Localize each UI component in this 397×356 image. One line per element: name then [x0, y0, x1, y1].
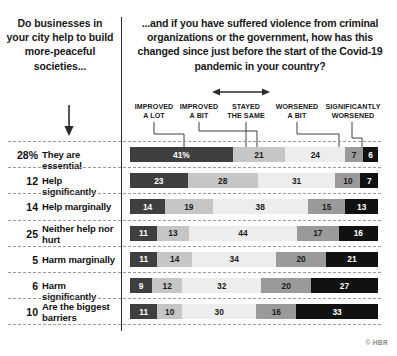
bar-segment: 10: [157, 304, 182, 319]
stacked-bar: 912322027: [130, 278, 378, 293]
table-row: 14Help marginally1419381513: [0, 199, 397, 221]
table-row: 28%They are essential41%212476: [0, 147, 397, 169]
table-row: 5Harm marginally1114342021: [0, 252, 397, 274]
bar-segment: 12: [152, 278, 182, 293]
stacked-bar: 1110301633: [130, 304, 378, 319]
bar-segment: 21: [233, 147, 286, 162]
bar-segment: 11: [130, 304, 157, 319]
bar-segment: 13: [345, 199, 378, 214]
table-row: 6Harm significantly912322027: [0, 278, 397, 300]
bar-segment: 30: [182, 304, 256, 319]
bar-segment: 15: [308, 199, 346, 214]
row-separator: [8, 193, 381, 194]
row-separator: [8, 246, 381, 247]
column-header-significantly-worsened: SIGNIFICANTLY WORSENED: [320, 103, 386, 120]
column-header-worsened-a-bit: WORSENED A BIT: [269, 103, 325, 120]
bar-segment: 21: [326, 252, 378, 267]
row-separator: [8, 167, 381, 168]
row-separator: [8, 272, 381, 273]
row-share-value: 28%: [8, 149, 38, 161]
bar-segment: 20: [261, 278, 311, 293]
stacked-bar: 1419381513: [130, 199, 378, 214]
bar-segment: 10: [335, 173, 360, 188]
stacked-bar: 232831107: [130, 173, 378, 188]
bar-segment: 14: [157, 252, 192, 267]
bar-segment: 33: [296, 304, 378, 319]
bar-segment: 19: [165, 199, 213, 214]
row-separator: [8, 220, 381, 221]
left-question-text: Do businesses in your city help to build…: [6, 16, 114, 73]
row-share-value: 6: [8, 280, 38, 292]
down-arrow-icon: [56, 104, 82, 138]
bar-segment: 28: [188, 173, 258, 188]
table-row: 12Help significantly232831107: [0, 173, 397, 195]
row-separator: [8, 298, 381, 299]
bar-segment: 34: [192, 252, 276, 267]
bar-segment: 27: [311, 278, 378, 293]
bar-segment: 17: [297, 226, 339, 241]
bar-segment: 24: [285, 147, 345, 162]
bar-segment: 11: [130, 226, 157, 241]
table-row: 25Neither help nor hurt1113441716: [0, 226, 397, 248]
row-category-label: Are the biggest barriers: [42, 301, 118, 323]
row-share-value: 5: [8, 254, 38, 266]
right-question-text: ...and if you have suffered violence fro…: [126, 16, 394, 73]
bar-segment: 16: [256, 304, 296, 319]
bar-segment: 20: [276, 252, 326, 267]
stacked-bar: 1113441716: [130, 226, 378, 241]
row-share-value: 10: [8, 306, 38, 318]
stacked-bar: 1114342021: [130, 252, 378, 267]
bar-segment: 6: [363, 147, 378, 162]
row-share-value: 14: [8, 201, 38, 213]
row-separator: [8, 324, 381, 325]
bar-segment: 14: [130, 199, 165, 214]
row-category-label: Help marginally: [42, 201, 118, 212]
left-right-arrow-icon: [212, 86, 270, 98]
bar-segment: 11: [130, 252, 157, 267]
bar-segment: 7: [360, 173, 378, 188]
bar-segment: 41%: [130, 147, 233, 162]
row-category-label: Harm marginally: [42, 254, 118, 265]
credit-label: © HBR: [366, 339, 388, 346]
bar-segment: 16: [339, 226, 378, 241]
bar-segment: 38: [213, 199, 308, 214]
column-header-stayed-the-same: STAYED THE SAME: [218, 103, 274, 120]
stacked-bar: 41%212476: [130, 147, 378, 162]
bar-segment: 9: [130, 278, 152, 293]
row-category-label: Neither help nor hurt: [42, 223, 118, 245]
bar-segment: 31: [258, 173, 336, 188]
bar-segment: 32: [182, 278, 261, 293]
infographic-root: Do businesses in your city help to build…: [0, 0, 397, 356]
bar-segment: 44: [189, 226, 297, 241]
bar-segment: 7: [345, 147, 363, 162]
table-row: 10Are the biggest barriers1110301633: [0, 304, 397, 326]
bar-segment: 23: [130, 173, 188, 188]
bar-segment: 13: [157, 226, 189, 241]
row-share-value: 12: [8, 175, 38, 187]
row-separator: [8, 141, 381, 142]
row-share-value: 25: [8, 228, 38, 240]
